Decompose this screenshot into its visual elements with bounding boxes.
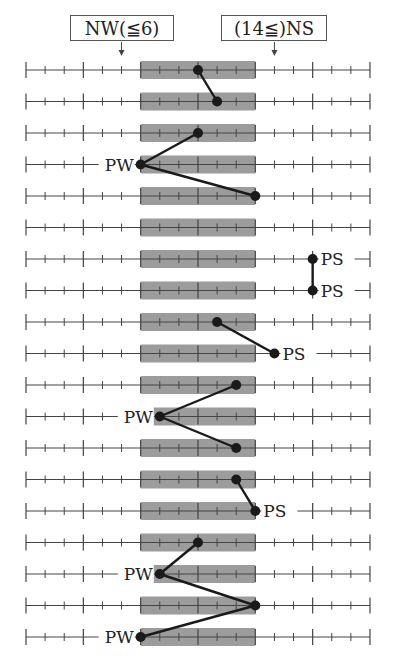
arrow-head bbox=[271, 50, 277, 56]
data-point-dot bbox=[231, 443, 241, 453]
scale-row bbox=[26, 156, 370, 174]
data-point-dot bbox=[231, 380, 241, 390]
data-point-dot bbox=[136, 160, 146, 170]
pw-label: PW bbox=[105, 627, 134, 647]
scale-row bbox=[26, 565, 370, 583]
scale-row bbox=[26, 345, 370, 363]
scale-row bbox=[26, 376, 370, 394]
pw-label: PW bbox=[124, 564, 153, 584]
nw-arrow-icon bbox=[119, 42, 125, 56]
pw-label: PW bbox=[124, 407, 153, 427]
data-point-dot bbox=[250, 601, 260, 611]
ps-label: PS bbox=[321, 281, 344, 301]
data-point-dot bbox=[250, 506, 260, 516]
data-point-dot bbox=[308, 254, 318, 264]
data-point-dot bbox=[193, 128, 203, 138]
data-point-dot bbox=[231, 475, 241, 485]
diagram-canvas: NW(≦6) (14≦)NS PWPSPSPSPWPSPWPW bbox=[0, 0, 399, 666]
data-point-dot bbox=[308, 286, 318, 296]
scale-row bbox=[26, 471, 370, 489]
scale-row bbox=[26, 439, 370, 457]
data-point-dot bbox=[136, 632, 146, 642]
scale-row bbox=[26, 628, 370, 646]
arrow-head bbox=[119, 50, 125, 56]
ns-arrow-icon bbox=[271, 42, 277, 56]
data-point-dot bbox=[269, 349, 279, 359]
ps-label: PS bbox=[282, 344, 305, 364]
pw-label: PW bbox=[105, 155, 134, 175]
data-point-dot bbox=[212, 97, 222, 107]
scale-row bbox=[26, 187, 370, 205]
data-point-dot bbox=[212, 317, 222, 327]
scale-rows-chart: PWPSPSPSPWPSPWPW bbox=[0, 0, 399, 666]
scale-row bbox=[26, 597, 370, 615]
scale-row bbox=[26, 313, 370, 331]
data-point-dot bbox=[250, 191, 260, 201]
scale-row bbox=[26, 219, 370, 237]
ps-label: PS bbox=[263, 501, 286, 521]
scale-row bbox=[26, 250, 370, 268]
scale-row bbox=[26, 93, 370, 111]
ps-label: PS bbox=[321, 249, 344, 269]
data-point-dot bbox=[193, 538, 203, 548]
data-point-dot bbox=[155, 412, 165, 422]
data-point-dot bbox=[155, 569, 165, 579]
scale-row bbox=[26, 502, 370, 520]
scale-row bbox=[26, 282, 370, 300]
data-point-dot bbox=[193, 65, 203, 75]
scale-row bbox=[26, 408, 370, 426]
